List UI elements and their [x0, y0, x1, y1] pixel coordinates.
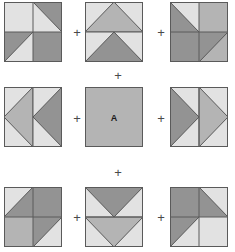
- quadrant-tl: [170, 187, 199, 217]
- tile-top-left[interactable]: [4, 2, 62, 62]
- center-tile-label: A: [85, 113, 143, 123]
- tile-bottom-center[interactable]: [85, 187, 143, 247]
- plus-row2-between-tile8-tile9: +: [154, 211, 168, 225]
- plus-row1-between-tile5-tile6: +: [154, 112, 168, 126]
- quadrant-bl: [4, 32, 33, 62]
- band-top: [85, 2, 143, 32]
- tile-top-center-graphic: [85, 2, 143, 62]
- tile-top-right[interactable]: [170, 2, 228, 62]
- quilt-block-diagram: + +: [0, 0, 235, 252]
- quadrant-tl: [170, 2, 199, 32]
- band-right: [199, 87, 228, 147]
- tile-top-right-graphic: [170, 2, 228, 62]
- plus-row1-between-tile4-tile5: +: [70, 112, 84, 126]
- plus-between-row0-row1: +: [111, 69, 125, 83]
- quadrant-bl: [170, 32, 199, 62]
- quadrant-br: [199, 32, 228, 62]
- quadrant-tr: [199, 187, 228, 217]
- tile-top-left-graphic: [4, 2, 62, 62]
- quadrant-tr: [199, 2, 228, 32]
- band-left: [170, 87, 199, 147]
- tile-bottom-left-graphic: [4, 187, 62, 247]
- tile-middle-right-graphic: [170, 87, 228, 147]
- tile-middle-left[interactable]: [4, 87, 62, 147]
- quadrant-tr: [33, 2, 62, 32]
- tile-bottom-right[interactable]: [170, 187, 228, 247]
- plus-between-row1-row2: +: [111, 166, 125, 180]
- tile-top-center[interactable]: [85, 2, 143, 62]
- quadrant-br: [33, 32, 62, 62]
- quadrant-br: [199, 217, 228, 247]
- band-bottom: [85, 32, 143, 62]
- tile-middle-right[interactable]: [170, 87, 228, 147]
- band-bottom: [85, 217, 143, 247]
- band-right: [33, 87, 62, 147]
- plus-row0-between-tile1-tile2: +: [70, 26, 84, 40]
- quadrant-bl: [4, 217, 33, 247]
- tile-bottom-left[interactable]: [4, 187, 62, 247]
- tile-middle-left-graphic: [4, 87, 62, 147]
- quadrant-tr: [33, 187, 62, 217]
- quadrant-tl: [4, 187, 33, 217]
- tile-bottom-right-graphic: [170, 187, 228, 247]
- quadrant-bl: [170, 217, 199, 247]
- plus-row0-between-tile2-tile3: +: [154, 26, 168, 40]
- band-top: [85, 187, 143, 217]
- band-left: [4, 87, 33, 147]
- tile-bottom-center-graphic: [85, 187, 143, 247]
- plus-row2-between-tile7-tile8: +: [70, 211, 84, 225]
- quadrant-br: [33, 217, 62, 247]
- quadrant-tl: [4, 2, 33, 32]
